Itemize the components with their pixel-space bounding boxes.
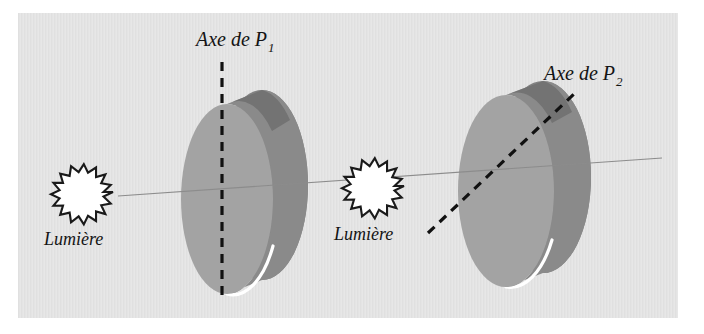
axis-label-p2-subscript: 2: [616, 74, 623, 89]
light-label-2: Lumière: [333, 224, 393, 244]
light-label-1: Lumière: [43, 229, 103, 249]
figure-root: Axe de P1 Axe de P2 Lumière Lumière: [0, 0, 704, 334]
axis-label-p1: Axe de P: [194, 28, 267, 50]
polarizer-1-front-face: [181, 104, 273, 294]
polarizer-diagram: Axe de P1 Axe de P2 Lumière Lumière: [0, 0, 704, 334]
polarizer-2-front-face: [458, 95, 554, 287]
axis-label-p1-subscript: 1: [268, 40, 275, 55]
axis-label-p2: Axe de P: [542, 62, 615, 84]
